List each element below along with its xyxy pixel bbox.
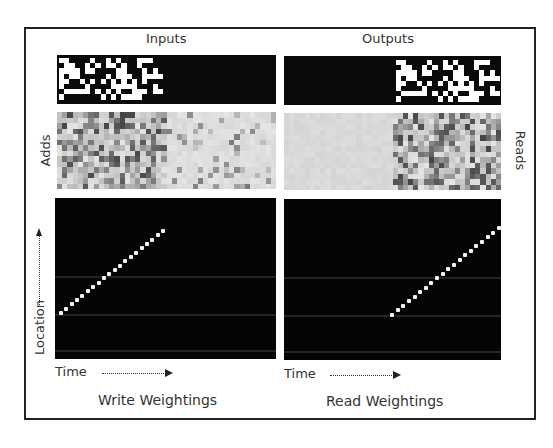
weighting-point [80, 294, 84, 298]
bit-cell [484, 60, 489, 65]
weighting-point [463, 253, 467, 257]
weighting-point [150, 238, 154, 242]
bit-cell [59, 94, 64, 99]
bit-cell [427, 70, 432, 75]
time-label-right: Time [284, 366, 316, 381]
bit-cell [495, 76, 500, 81]
adds-label: Adds [38, 131, 53, 171]
bit-cell [90, 68, 95, 73]
bit-cell [95, 63, 100, 68]
memory-cell [271, 184, 276, 190]
weighting-point [418, 290, 422, 294]
bit-cell [90, 79, 95, 84]
bit-cell [479, 81, 484, 86]
write-weightings-panel [55, 198, 276, 359]
bit-cell [438, 96, 443, 101]
weighting-point [156, 233, 160, 237]
bit-cell [147, 58, 152, 63]
weighting-point [441, 272, 445, 276]
bit-cell [85, 89, 90, 94]
weighting-point [413, 295, 417, 299]
weighting-point [145, 242, 149, 246]
weighting-point [107, 272, 111, 276]
weighting-point [480, 240, 484, 244]
weighting-point [401, 304, 405, 308]
weighting-point [75, 298, 79, 302]
weighting-point [497, 226, 501, 230]
weighting-point [424, 286, 428, 290]
weighting-point [70, 302, 74, 306]
read-weightings-panel [284, 199, 501, 360]
outputs-bit-panel [284, 56, 501, 105]
bit-cell [479, 91, 484, 96]
bit-cell [101, 79, 106, 84]
weighting-point [129, 255, 133, 259]
up-arrow-icon [36, 228, 42, 236]
weighting-point [86, 289, 90, 293]
weighting-point [446, 267, 450, 271]
weighting-point [134, 251, 138, 255]
weighting-point [390, 313, 394, 317]
weighting-band [284, 277, 501, 279]
weighting-band [55, 314, 276, 316]
weighting-band [284, 351, 501, 353]
bit-cell [142, 79, 147, 84]
weighting-point [140, 246, 144, 250]
bit-cell [438, 81, 443, 86]
reads-label: Reads [513, 126, 528, 176]
weighting-point [474, 244, 478, 248]
weighting-point [458, 258, 462, 262]
bit-cell [64, 79, 69, 84]
bit-cell [432, 65, 437, 70]
weighting-point [396, 308, 400, 312]
inputs-title: Inputs [146, 31, 186, 46]
weighting-point [491, 231, 495, 235]
weighting-point [97, 281, 101, 285]
memory-cell [496, 185, 501, 191]
adds-panel [57, 112, 276, 189]
reads-panel [284, 113, 501, 190]
outputs-title: Outputs [362, 31, 414, 46]
bit-cell [427, 81, 432, 86]
weighting-point [435, 276, 439, 280]
weighting-point [407, 299, 411, 303]
bit-cell [101, 94, 106, 99]
weighting-point [429, 281, 433, 285]
bit-cell [401, 81, 406, 86]
bit-cell [474, 96, 479, 101]
weighting-point [123, 259, 127, 263]
bit-cell [137, 94, 142, 99]
weighting-point [452, 263, 456, 267]
bit-cell [396, 96, 401, 101]
weighting-point [102, 276, 106, 280]
inputs-bit-panel [57, 55, 276, 104]
bit-cell [422, 91, 427, 96]
bit-cell [158, 89, 163, 94]
right-arrow-icon [165, 369, 173, 377]
bit-cell [448, 96, 453, 101]
weighting-band [55, 350, 276, 352]
weighting-point [91, 285, 95, 289]
right-arrow-icon [393, 371, 401, 379]
weighting-band [55, 276, 276, 278]
bit-cell [111, 94, 116, 99]
bit-cell [158, 74, 163, 79]
bit-cell [495, 91, 500, 96]
write-weightings-caption: Write Weightings [98, 392, 217, 408]
bit-cell [142, 89, 147, 94]
time-label-left: Time [55, 364, 87, 379]
time-axis-line-left [102, 373, 166, 374]
read-weightings-caption: Read Weightings [326, 393, 443, 409]
time-axis-line-right [330, 375, 394, 376]
weighting-point [118, 264, 122, 268]
location-axis-line [39, 235, 40, 305]
weighting-point [59, 311, 63, 315]
weighting-point [161, 229, 165, 233]
weighting-point [486, 235, 490, 239]
weighting-point [469, 249, 473, 253]
weighting-point [64, 307, 68, 311]
weighting-point [113, 268, 117, 272]
